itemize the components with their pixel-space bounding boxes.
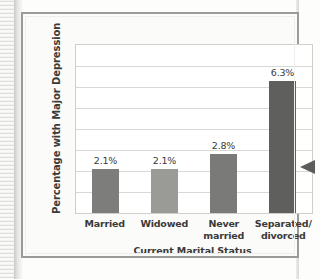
bar-slot: 6.3% bbox=[253, 45, 312, 213]
x-axis-category-label: Never married bbox=[194, 218, 254, 241]
bar[interactable]: 2.1% bbox=[92, 169, 119, 213]
scanned-page: Percentage with Major Depression 2.1%2.1… bbox=[0, 0, 320, 279]
x-axis-title: Current Marital Status bbox=[71, 245, 314, 256]
bar-slot: 2.8% bbox=[194, 45, 253, 213]
x-axis-category-label: Separated/ divorced bbox=[254, 218, 314, 241]
bars-container: 2.1%2.1%2.8%6.3% bbox=[76, 45, 312, 213]
x-axis-category-label: Widowed bbox=[135, 218, 195, 241]
figure-frame: Percentage with Major Depression 2.1%2.1… bbox=[21, 12, 299, 258]
bar-value-label: 2.1% bbox=[94, 155, 117, 166]
bar[interactable]: 2.8% bbox=[210, 154, 237, 213]
bar[interactable]: 6.3% bbox=[269, 81, 296, 213]
bar-value-label: 2.8% bbox=[212, 140, 235, 151]
bar-slot: 2.1% bbox=[135, 45, 194, 213]
y-axis-title: Percentage with Major Depression bbox=[49, 44, 65, 214]
x-axis-category-label: Married bbox=[75, 218, 135, 241]
bar-value-label: 6.3% bbox=[271, 67, 294, 78]
edge-arrow-marker-icon bbox=[300, 160, 315, 174]
plot-area: 2.1%2.1%2.8%6.3% bbox=[75, 44, 313, 214]
bar-slot: 2.1% bbox=[76, 45, 135, 213]
x-axis-category-labels: MarriedWidowedNever marriedSeparated/ di… bbox=[75, 218, 313, 241]
page-gutter-texture bbox=[0, 0, 14, 279]
bar-value-label: 2.1% bbox=[153, 155, 176, 166]
bar[interactable]: 2.1% bbox=[151, 169, 178, 213]
